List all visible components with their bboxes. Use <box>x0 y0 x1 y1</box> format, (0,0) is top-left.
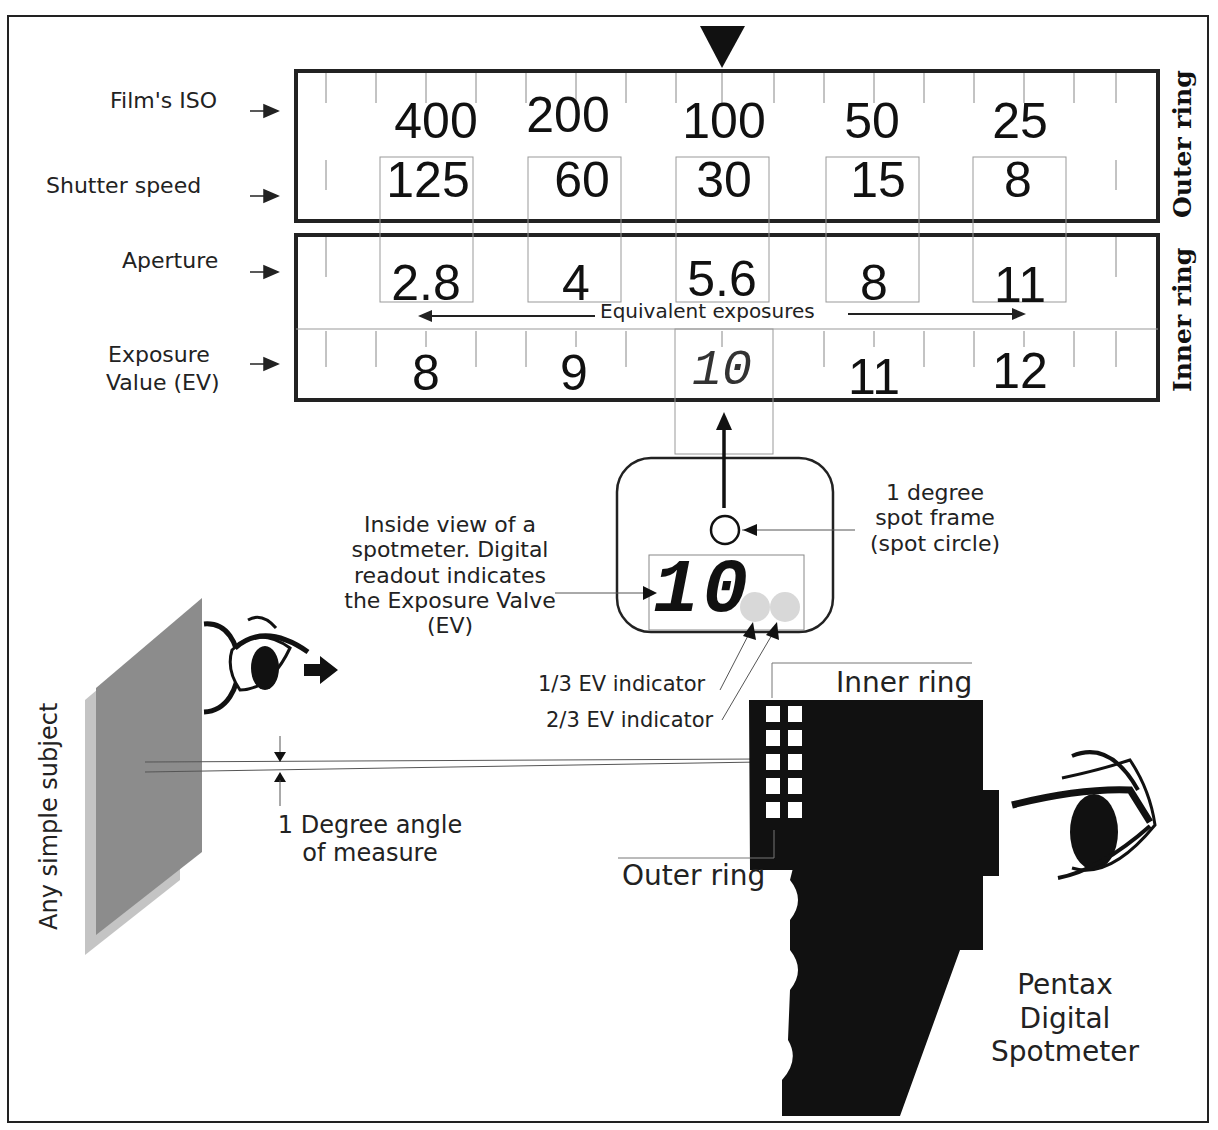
outer-ring-side-label: Outer ring <box>1168 70 1197 218</box>
ev-value: 11 <box>814 352 934 402</box>
label-aperture: Aperture <box>122 248 218 273</box>
sight-arrow-icon <box>304 656 338 684</box>
aperture-value: 5.6 <box>662 254 782 304</box>
spot-frame-label: 1 degree spot frame (spot circle) <box>860 480 1010 556</box>
two-third-ev-label: 2/3 EV indicator <box>546 708 713 732</box>
angle-label: 1 Degree angle of measure <box>270 812 470 867</box>
subject-label: Any simple subject <box>36 703 64 930</box>
right-eye-pupil <box>1070 794 1118 870</box>
subject-front-plane <box>96 598 202 935</box>
ev-value: 12 <box>960 346 1080 396</box>
inner-ring-side-label: Inner ring <box>1168 248 1197 392</box>
aperture-value: 2.8 <box>366 258 486 308</box>
iso-value: 400 <box>376 96 496 146</box>
digital-readout: 10 <box>653 553 752 629</box>
meter-name: Pentax Digital Spotmeter <box>980 968 1150 1069</box>
meter-inner-ring-label: Inner ring <box>836 667 972 699</box>
ev-value: 9 <box>514 348 634 398</box>
aperture-value: 8 <box>814 258 934 308</box>
shutter-value: 15 <box>818 155 938 205</box>
label-shutter-speed: Shutter speed <box>46 173 201 198</box>
viewfinder-description: Inside view of a spotmeter. Digital read… <box>340 512 560 638</box>
shutter-value: 60 <box>522 155 642 205</box>
shutter-value: 30 <box>664 155 784 205</box>
shutter-value: 8 <box>958 155 1078 205</box>
ev-value-selected: 10 <box>662 346 782 396</box>
ev-value: 8 <box>366 348 486 398</box>
meter-outer-ring-label: Outer ring <box>622 860 765 892</box>
iso-value: 25 <box>960 96 1080 146</box>
two-third-ev-dot <box>770 592 800 622</box>
iso-value: 200 <box>508 90 628 140</box>
equivalent-exposures-label: Equivalent exposures <box>600 300 815 323</box>
iso-value: 50 <box>812 96 932 146</box>
spotmeter-body <box>749 700 983 1116</box>
shutter-value: 125 <box>368 155 488 205</box>
index-pointer-icon <box>700 26 745 68</box>
iso-value: 100 <box>664 96 784 146</box>
label-ev-line1: Exposure <box>108 342 210 367</box>
one-third-ev-label: 1/3 EV indicator <box>538 672 705 696</box>
label-ev-line2: Value (EV) <box>106 370 220 395</box>
aperture-value: 11 <box>960 260 1080 310</box>
label-film-iso: Film's ISO <box>110 88 217 113</box>
